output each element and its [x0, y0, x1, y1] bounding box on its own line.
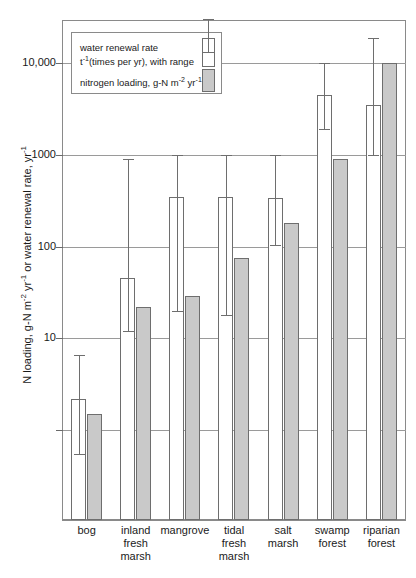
legend-error-bar-cap-lower	[203, 52, 214, 53]
error-bar-cap-upper	[172, 155, 183, 156]
bar-group	[308, 20, 357, 520]
error-bar-water-renewal-rate	[177, 155, 178, 311]
y-axis-tick-labels: 10,000100010010	[0, 0, 56, 578]
bar-nitrogen-loading[interactable]	[333, 159, 348, 520]
error-bar-water-renewal-rate	[275, 155, 276, 245]
bar-group	[160, 20, 209, 520]
error-bar-cap-upper	[368, 38, 379, 39]
error-bar-cap-lower	[221, 315, 232, 316]
bar-water-renewal-rate[interactable]	[366, 105, 381, 520]
x-axis-line	[62, 520, 406, 521]
error-bar-cap-lower	[74, 454, 85, 455]
bars-layer	[62, 20, 406, 520]
figure-root: N loading, g-N m-2 yr-1 or water renewal…	[0, 0, 416, 578]
error-bar-cap-lower	[123, 331, 134, 332]
y-axis-label-10: 10	[4, 332, 56, 343]
error-bar-cap-upper	[123, 159, 134, 160]
error-bar-cap-upper	[270, 155, 281, 156]
legend-label-line1: water renewal rate	[80, 42, 158, 53]
bar-group	[62, 20, 111, 520]
bar-nitrogen-loading[interactable]	[382, 63, 397, 520]
bar-group	[209, 20, 258, 520]
error-bar-water-renewal-rate	[128, 159, 129, 331]
error-bar-cap-lower	[319, 129, 330, 130]
chart-legend: water renewal rate t-1(times per yr), wi…	[71, 32, 222, 94]
bar-water-renewal-rate[interactable]	[268, 198, 283, 520]
bar-nitrogen-loading[interactable]	[136, 307, 151, 520]
error-bar-cap-upper	[221, 155, 232, 156]
error-bar-cap-upper	[319, 63, 330, 64]
legend-error-bar	[208, 19, 209, 53]
bar-group	[259, 20, 308, 520]
legend-label-line2-post: (times per yr), with range	[89, 56, 194, 67]
legend-item-water-renewal-rate: water renewal rate t-1(times per yr), wi…	[80, 42, 194, 67]
y-axis-label-100: 100	[4, 241, 56, 252]
error-bar-cap-lower	[172, 311, 183, 312]
error-bar-cap-upper	[74, 355, 85, 356]
error-bar-water-renewal-rate	[79, 355, 80, 453]
y-axis-label-10000: 10,000	[4, 57, 56, 68]
legend-label-n-mid: yr	[185, 77, 196, 88]
error-bar-water-renewal-rate	[226, 155, 227, 315]
bar-nitrogen-loading[interactable]	[284, 223, 299, 520]
bar-nitrogen-loading[interactable]	[185, 296, 200, 520]
bar-nitrogen-loading[interactable]	[87, 414, 102, 520]
error-bar-water-renewal-rate	[324, 63, 325, 129]
error-bar-cap-lower	[368, 155, 379, 156]
legend-item-nitrogen-loading: nitrogen loading, g-N m-2 yr-1	[80, 74, 202, 88]
bar-water-renewal-rate[interactable]	[317, 95, 332, 520]
bar-group	[111, 20, 160, 520]
bar-nitrogen-loading[interactable]	[234, 258, 249, 520]
error-bar-cap-lower	[270, 245, 281, 246]
y-axis-label-1000: 1000	[4, 149, 56, 160]
legend-label-n-sup2: -1	[196, 76, 202, 83]
x-axis-label-riparian-forest: riparianforest	[351, 524, 412, 550]
legend-swatch-nitrogen-loading	[202, 69, 215, 92]
x-axis-tick-labels: boginlandfreshmarshmangrovetidalfreshmar…	[62, 524, 406, 578]
error-bar-water-renewal-rate	[373, 38, 374, 155]
bar-group	[357, 20, 406, 520]
legend-label-n-pre: nitrogen loading, g-N m	[80, 77, 179, 88]
legend-error-bar-cap-upper	[203, 19, 214, 20]
